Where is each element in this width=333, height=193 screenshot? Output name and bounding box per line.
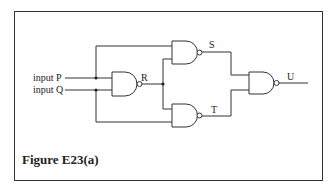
nand-gate-t: [172, 104, 198, 127]
nand-bubble-u: [274, 81, 279, 86]
label-s: S: [209, 39, 215, 50]
junction-dot-r: [161, 82, 164, 85]
wire-p-to-s: [96, 46, 172, 78]
nand-gate-u: [249, 72, 274, 94]
label-input-p: input P: [33, 72, 62, 83]
label-u: U: [287, 71, 295, 82]
junction-dot-q: [94, 88, 97, 91]
wire-q-to-t: [96, 90, 172, 122]
wire-s-to-u: [201, 52, 249, 75]
wire-t-to-u: [201, 90, 249, 116]
label-t: T: [211, 104, 217, 115]
figure-caption: Figure E23(a): [22, 152, 99, 168]
nand-bubble-t: [197, 113, 202, 118]
nand-bubble-s: [197, 50, 202, 55]
label-r: R: [141, 72, 148, 83]
label-input-q: input Q: [33, 84, 64, 95]
nand-gate-r: [112, 72, 137, 96]
junction-dot-p: [94, 76, 97, 79]
nand-gate-s: [172, 41, 198, 64]
